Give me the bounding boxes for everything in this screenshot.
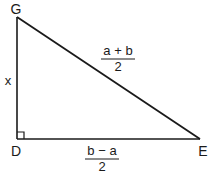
side-gd-label: x bbox=[5, 73, 12, 88]
vertex-label-d: D bbox=[11, 143, 21, 159]
side-ge-label: a + b 2 bbox=[101, 43, 135, 74]
vertex-label-e: E bbox=[198, 143, 207, 159]
right-triangle-diagram: G D E x a + b 2 b − a 2 bbox=[0, 0, 208, 176]
vertex-label-g: G bbox=[11, 1, 22, 17]
side-ge-hypotenuse bbox=[17, 17, 200, 139]
side-ge-numerator: a + b bbox=[103, 43, 132, 58]
side-de-label: b − a 2 bbox=[85, 143, 119, 174]
side-ge-denominator: 2 bbox=[114, 59, 121, 74]
side-de-denominator: 2 bbox=[98, 159, 105, 174]
right-angle-marker bbox=[17, 132, 24, 139]
side-de-numerator: b − a bbox=[87, 143, 117, 158]
